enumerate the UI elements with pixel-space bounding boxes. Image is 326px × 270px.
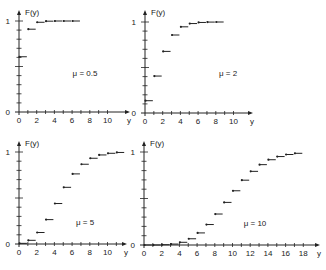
y-tick-label: 0 [6, 108, 11, 117]
cdf-point [215, 21, 217, 23]
cdf-point [161, 244, 163, 246]
cdf-point [54, 20, 56, 22]
cdf-point [294, 152, 296, 154]
cdf-point [171, 34, 173, 36]
panel-mu-10: 01F(y)024681012141618yμ = 10 [131, 139, 321, 258]
x-tick-label: 4 [177, 249, 182, 258]
x-tick-label: 8 [214, 117, 219, 126]
y-tick-label: 1 [132, 18, 137, 27]
mu-annotation: μ = 10 [244, 219, 267, 228]
cdf-point [205, 223, 207, 225]
x-tick-label: 6 [70, 116, 75, 125]
y-axis-label: F(y) [25, 8, 40, 17]
x-tick-label: 0 [17, 116, 22, 125]
x-tick-label: 8 [88, 116, 93, 125]
x-tick-label: 2 [34, 116, 39, 125]
cdf-point [276, 155, 278, 157]
x-tick-label: 6 [196, 117, 201, 126]
x-tick-label: 12 [246, 249, 255, 258]
cdf-point [27, 28, 29, 30]
y-axis-label: F(y) [25, 139, 40, 148]
cdf-point [18, 242, 20, 244]
cdf-point [241, 179, 243, 181]
x-axis-label: y [127, 116, 131, 125]
x-tick-label: 2 [159, 249, 164, 258]
x-tick-label: 4 [178, 117, 183, 126]
cdf-point [162, 50, 164, 52]
cdf-point [197, 232, 199, 234]
mu-annotation: μ = 0.5 [73, 69, 98, 78]
cdf-point [89, 157, 91, 159]
x-tick-label: 18 [299, 249, 308, 258]
cdf-point [198, 21, 200, 23]
cdf-point [232, 190, 234, 192]
x-tick-label: 0 [143, 117, 148, 126]
y-axis-arrow-icon [17, 141, 21, 146]
x-tick-label: 4 [52, 248, 57, 257]
x-axis-label: y [317, 249, 321, 258]
y-axis-label: F(y) [150, 139, 165, 148]
cdf-point [214, 213, 216, 215]
y-tick-label: 1 [131, 148, 136, 157]
panel-mu-0-5: 01F(y)0246810yμ = 0.5 [6, 8, 131, 125]
cdf-point [45, 20, 47, 22]
panel-mu-5: 01F(y)0246810yμ = 5 [6, 139, 128, 257]
y-axis-arrow-icon [142, 141, 146, 146]
y-axis-arrow-icon [143, 10, 147, 15]
cdf-point [152, 244, 154, 246]
figure-canvas: 01F(y)0246810yμ = 0.5 01F(y)0246810yμ = … [0, 0, 326, 270]
y-axis-arrow-icon [17, 10, 21, 15]
x-axis-arrow-icon [315, 243, 320, 247]
cdf-point [223, 201, 225, 203]
poisson-cdf-figure: 01F(y)0246810yμ = 0.5 01F(y)0246810yμ = … [0, 0, 326, 270]
x-tick-label: 0 [142, 249, 147, 258]
x-tick-label: 2 [160, 117, 165, 126]
y-tick-label: 1 [6, 148, 11, 157]
cdf-point [143, 244, 145, 246]
mu-annotation: μ = 5 [76, 218, 95, 227]
cdf-point [206, 21, 208, 23]
cdf-point [63, 20, 65, 22]
x-axis-label: y [250, 117, 254, 126]
cdf-point [180, 26, 182, 28]
x-tick-label: 2 [34, 248, 39, 257]
cdf-point [285, 153, 287, 155]
x-tick-label: 6 [195, 249, 200, 258]
cdf-point [72, 173, 74, 175]
y-axis-label: F(y) [151, 8, 166, 17]
y-tick-label: 0 [132, 109, 137, 118]
cdf-point [189, 22, 191, 24]
cdf-point [107, 152, 109, 154]
x-tick-label: 10 [228, 249, 237, 258]
cdf-point [36, 231, 38, 233]
cdf-point [54, 202, 56, 204]
x-axis-arrow-icon [125, 110, 130, 114]
x-axis-arrow-icon [122, 242, 127, 246]
cdf-point [144, 100, 146, 102]
cdf-point [179, 241, 181, 243]
x-tick-label: 0 [17, 248, 22, 257]
x-tick-label: 10 [103, 248, 112, 257]
y-tick-label: 0 [6, 240, 11, 249]
x-tick-label: 10 [229, 117, 238, 126]
x-tick-label: 14 [263, 249, 272, 258]
cdf-point [170, 243, 172, 245]
x-tick-label: 8 [88, 248, 93, 257]
cdf-point [188, 238, 190, 240]
x-tick-label: 8 [213, 249, 218, 258]
cdf-point [80, 163, 82, 165]
cdf-point [153, 75, 155, 77]
cdf-point [27, 239, 29, 241]
cdf-point [63, 186, 65, 188]
x-tick-label: 6 [70, 248, 75, 257]
x-tick-label: 4 [52, 116, 57, 125]
x-axis-label: y [124, 248, 128, 257]
panel-mu-2: 01F(y)0246810yμ = 2 [132, 8, 254, 126]
cdf-point [72, 20, 74, 22]
cdf-point [98, 154, 100, 156]
x-axis-arrow-icon [248, 111, 253, 115]
cdf-point [36, 21, 38, 23]
cdf-point [250, 170, 252, 172]
cdf-point [45, 219, 47, 221]
x-tick-label: 10 [103, 116, 112, 125]
